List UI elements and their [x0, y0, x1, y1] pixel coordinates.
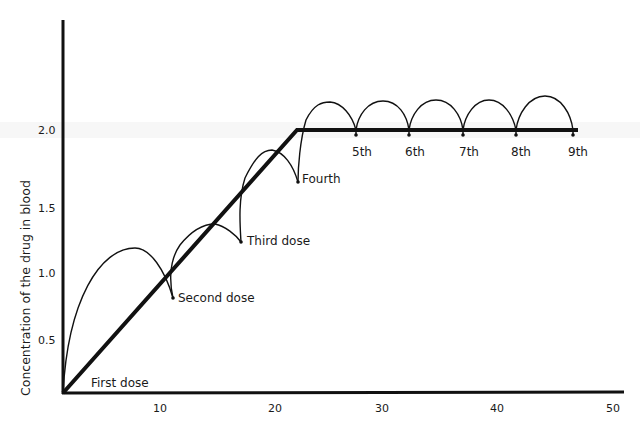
y-tick-0-5: 0.5 — [38, 334, 56, 347]
label-7th-dose: 7th — [459, 145, 479, 159]
marker-second — [171, 296, 175, 300]
label-6th-dose: 6th — [405, 145, 425, 159]
y-tick-1-5: 1.5 — [38, 202, 56, 215]
marker-fourth — [296, 180, 300, 184]
label-fourth-dose: Fourth — [302, 172, 341, 186]
x-tick-40: 40 — [490, 402, 504, 415]
drug-concentration-chart: 2.0 1.5 1.0 0.5 10 20 30 40 50 Concentra… — [0, 0, 640, 435]
average-concentration-line — [63, 130, 578, 393]
x-tick-10: 10 — [153, 402, 167, 415]
x-tick-30: 30 — [375, 402, 389, 415]
dose-curve-1 — [63, 248, 173, 393]
label-8th-dose: 8th — [511, 145, 531, 159]
label-9th-dose: 9th — [568, 145, 588, 159]
x-axis — [62, 392, 624, 393]
x-tick-20: 20 — [268, 402, 282, 415]
y-tick-2-0: 2.0 — [38, 124, 56, 137]
y-axis-title: Concentration of the drug in blood — [18, 180, 33, 396]
x-tick-50: 50 — [606, 402, 620, 415]
dose-curve-4 — [298, 102, 356, 182]
marker-third — [239, 240, 243, 244]
dose-curves — [63, 96, 573, 393]
y-tick-1-0: 1.0 — [38, 267, 56, 280]
label-5th-dose: 5th — [352, 145, 372, 159]
label-first-dose: First dose — [91, 376, 149, 390]
label-third-dose: Third dose — [246, 234, 310, 248]
label-second-dose: Second dose — [178, 291, 255, 305]
